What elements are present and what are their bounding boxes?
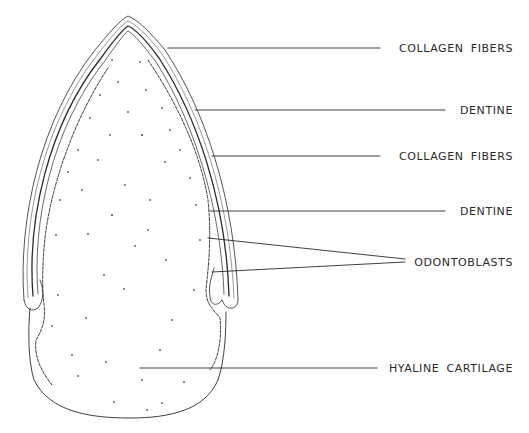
label-collagen-fibers-2: COLLAGEN FIBERS <box>399 150 513 163</box>
dentine-outer <box>32 26 229 296</box>
hyaline-cartilage-outline <box>29 308 226 418</box>
dentine-inner <box>37 31 224 294</box>
odontoblast-layer-left <box>36 68 108 385</box>
leader-odontoblasts-lower <box>212 262 405 272</box>
outer-collagen-outline <box>23 16 238 308</box>
label-odontoblasts: ODONTOBLASTS <box>414 256 513 269</box>
collagen-layer-2 <box>27 21 234 298</box>
odontoblast-layer-right <box>148 60 221 370</box>
leader-odontoblasts-upper <box>208 238 405 259</box>
label-dentine-2: DENTINE <box>460 205 513 218</box>
label-collagen-fibers-1: COLLAGEN FIBERS <box>399 42 513 55</box>
label-hyaline-cartilage: HYALINE CARTILAGE <box>389 362 513 375</box>
label-dentine-1: DENTINE <box>460 104 513 117</box>
right-lip <box>209 268 222 304</box>
